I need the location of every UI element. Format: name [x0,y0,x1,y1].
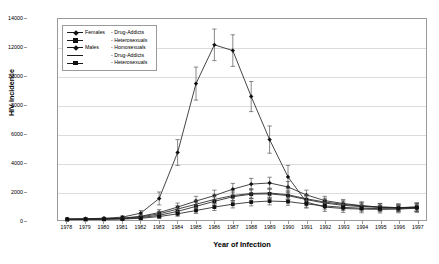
data-point [323,204,327,208]
x-tick-mark [251,221,252,224]
x-tick-mark [140,221,141,224]
series-line [67,194,417,220]
x-tick-mark [270,221,271,224]
x-tick-mark [418,221,419,224]
x-tick-mark [399,221,400,224]
data-point [231,202,235,206]
y-tick-mark [24,192,27,193]
series-line [67,183,417,219]
data-point [194,81,198,85]
data-point [212,43,216,47]
y-tick-mark [24,134,27,135]
data-point [176,212,180,216]
y-tick-label: 10000 [8,73,23,79]
data-series [65,188,419,220]
data-series [65,177,419,221]
data-series [65,189,419,221]
data-point [397,207,401,211]
data-point [175,150,179,154]
legend-item[interactable]: - Heterosexuals [66,37,153,45]
data-point [249,200,253,204]
data-point [378,207,382,211]
data-point [360,206,364,210]
y-tick-mark [24,105,27,106]
x-tick-mark [288,221,289,224]
x-tick-mark [196,221,197,224]
chart-figure: HIV Incidence 02000400060008000100001200… [0,0,439,264]
legend-marker-icon [66,37,84,45]
x-tick-mark [159,221,160,224]
y-tick-mark [24,221,27,222]
x-tick-label: 1997 [406,224,430,230]
y-tick-mark [24,47,27,48]
legend-group-label: Males [84,44,111,52]
x-tick-mark [122,221,123,224]
y-tick-label: 2000 [11,189,23,195]
y-tick-mark [24,163,27,164]
data-point [305,202,309,206]
legend-item-label: - Heterosexuals [111,37,153,45]
x-tick-mark [214,221,215,224]
x-tick-mark [103,221,104,224]
legend-item[interactable]: - Heterosexuals [66,59,153,67]
legend-marker-icon [66,59,84,67]
x-axis-title: Year of Infection [57,240,427,249]
data-point [267,181,271,185]
series-line [67,193,417,219]
series-line [67,201,417,220]
y-tick-label: 6000 [11,131,23,137]
data-point [157,215,161,219]
legend-item[interactable]: Females- Drug-Addicts [66,29,153,37]
y-tick-label: 4000 [11,160,23,166]
data-point [415,206,419,210]
data-point [267,137,271,141]
x-tick-mark [362,221,363,224]
x-tick-mark [177,221,178,224]
y-tick-label: 12000 [8,44,23,50]
x-tick-mark [66,221,67,224]
legend-item-label: - Drug-Addicts [111,29,153,37]
x-tick-mark [381,221,382,224]
data-point [139,216,143,220]
legend-item[interactable]: Males- Homosexuals [66,44,153,52]
legend-marker-icon [66,29,84,37]
y-tick-label: 8000 [11,102,23,108]
x-tick-mark [307,221,308,224]
x-tick-mark [233,221,234,224]
legend: Females- Drug-Addicts- HeterosexualsMale… [62,25,157,71]
legend-item[interactable]: - Drug-Addicts [66,52,153,60]
y-tick-label: 0 [20,218,23,224]
data-point [341,205,345,209]
legend-marker-icon [66,52,84,60]
y-axis: HIV Incidence 02000400060008000100001200… [0,0,57,221]
y-tick-mark [24,18,27,19]
data-point [268,199,272,203]
data-point [249,182,253,186]
legend-group-label: Females [84,29,111,37]
x-tick-mark [344,221,345,224]
y-tick-mark [24,76,27,77]
x-tick-mark [325,221,326,224]
data-point [249,94,253,98]
data-point [213,205,217,209]
legend-marker-icon [66,44,84,52]
legend-item-label: - Homosexuals [111,44,153,52]
data-point [231,48,235,52]
legend-item-label: - Heterosexuals [111,59,153,67]
y-tick-label: 14000 [8,15,23,21]
data-point [286,200,290,204]
x-tick-mark [85,221,86,224]
x-axis: 1978197919801981198219831984198519861987… [57,222,427,238]
data-point [194,209,198,213]
legend-item-label: - Drug-Addicts [111,52,153,60]
